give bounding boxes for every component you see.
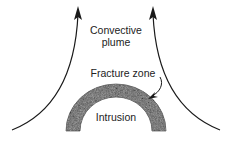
label-intrusion: Intrusion bbox=[96, 111, 136, 123]
label-plume-line2: plume bbox=[102, 36, 131, 48]
intrusion-arch bbox=[66, 84, 166, 131]
right-plume-arrow bbox=[153, 14, 220, 130]
label-fracture-zone: Fracture zone bbox=[91, 67, 156, 79]
convective-plume-diagram: Convective plume Fracture zone Intrusion bbox=[0, 0, 231, 144]
label-plume-line1: Convective bbox=[90, 24, 142, 36]
left-plume-arrow bbox=[12, 14, 78, 130]
fracture-zone-pointer bbox=[152, 77, 162, 96]
